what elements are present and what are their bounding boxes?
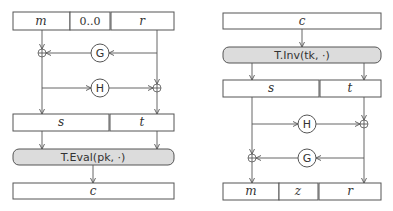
st-row: s t: [13, 114, 174, 131]
oracle-h-label: H: [303, 118, 311, 131]
s-label: s: [58, 115, 64, 129]
s-label: s: [268, 81, 274, 95]
z-label: z: [294, 184, 302, 198]
c-output-label: c: [90, 184, 97, 198]
oracle-g-label: G: [96, 47, 105, 60]
xor-icon: [248, 154, 256, 162]
input-row: m 0..0 r: [13, 12, 174, 30]
c-input-label: c: [299, 14, 306, 28]
xor-icon: [360, 120, 368, 128]
output-row: m z r: [223, 183, 381, 200]
padding-label: 0..0: [80, 15, 101, 28]
st-row: s t: [223, 80, 381, 97]
decrypt-diagram: c T.Inv(tk, ·) s t H G: [223, 13, 381, 200]
encrypt-diagram: m 0..0 r G H: [13, 12, 174, 199]
t-eval-label: T.Eval(pk, ·): [60, 151, 126, 164]
t-label: t: [348, 81, 353, 95]
oracle-h-label: H: [96, 82, 104, 95]
t-label: t: [140, 115, 145, 129]
m-label: m: [245, 184, 256, 198]
m-label: m: [35, 14, 46, 28]
t-inv-label: T.Inv(tk, ·): [273, 49, 329, 62]
oracle-g-label: G: [303, 152, 312, 165]
oaep-diagrams: m 0..0 r G H: [0, 0, 393, 211]
xor-icon: [38, 49, 46, 57]
xor-icon: [153, 84, 161, 92]
